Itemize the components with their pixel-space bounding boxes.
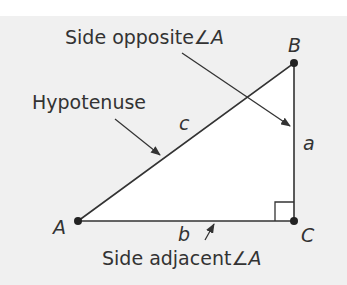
side-a-label: a bbox=[303, 132, 315, 154]
triangle-diagram: Side opposite∠A Hypotenuse Side adjacent… bbox=[0, 0, 347, 285]
adjacent-arrow bbox=[205, 224, 214, 240]
side-b-label: b bbox=[178, 223, 190, 245]
hypotenuse-arrow bbox=[115, 119, 160, 155]
vertex-a-dot bbox=[74, 217, 82, 225]
adjacent-label: Side adjacent∠A bbox=[102, 247, 261, 269]
vertex-b-dot bbox=[290, 59, 298, 67]
vertex-c-label: C bbox=[301, 224, 315, 246]
hypotenuse-label: Hypotenuse bbox=[32, 91, 146, 113]
opposite-label: Side opposite∠A bbox=[65, 26, 224, 48]
diagram-canvas: Side opposite∠A Hypotenuse Side adjacent… bbox=[0, 0, 347, 285]
vertex-c-dot bbox=[290, 217, 298, 225]
side-c-label: c bbox=[179, 112, 190, 134]
vertex-b-label: B bbox=[288, 34, 301, 56]
vertex-a-label: A bbox=[51, 216, 66, 238]
triangle bbox=[78, 63, 294, 221]
